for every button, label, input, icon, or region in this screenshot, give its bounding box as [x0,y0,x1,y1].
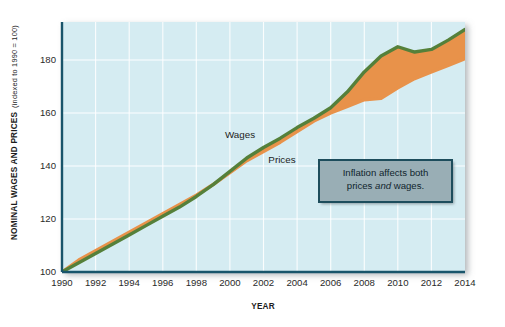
x-tick-label: 1996 [152,277,173,288]
x-tick-label: 1992 [85,277,106,288]
x-tick-label: 2004 [286,277,308,288]
callout-line-2: prices and wages. [347,180,424,191]
series-label-wages: Wages [225,129,255,140]
y-tick-label: 180 [40,54,56,65]
callout-box: Inflation affects both prices and wages. [319,160,452,202]
x-axis-title: YEAR [251,302,275,311]
y-tick-label: 140 [40,160,56,171]
callout-text-before: prices [347,180,375,191]
chart-figure: 100120140160180 199019921994199619982000… [0,0,505,327]
x-tick-label: 2008 [354,277,375,288]
y-axis-title: NOMINAL WAGES AND PRICES(indexed to 1990… [10,25,19,240]
y-tick-label: 160 [40,107,56,118]
x-tick-label: 1990 [51,277,72,288]
x-tick-label: 2010 [387,277,408,288]
callout-line-1: Inflation affects both [343,167,429,178]
y-tick-label: 100 [40,266,56,277]
callout-text-emphasis: and [375,180,392,191]
x-tick-label: 1994 [118,277,140,288]
x-tick-label: 2002 [253,277,274,288]
chart-svg: 100120140160180 199019921994199619982000… [0,0,505,327]
y-axis-title-sub: (indexed to 1990 = 100) [10,25,19,108]
x-tick-label: 1998 [186,277,207,288]
x-tick-label: 2006 [320,277,341,288]
y-axis-title-main: NOMINAL WAGES AND PRICES [10,112,19,240]
x-tick-label: 2000 [219,277,240,288]
callout-text-after: wages. [391,180,424,191]
x-tick-label: 2014 [454,277,476,288]
series-label-prices: Prices [268,154,295,165]
y-tick-label: 120 [40,213,56,224]
x-tick-label: 2012 [421,277,442,288]
